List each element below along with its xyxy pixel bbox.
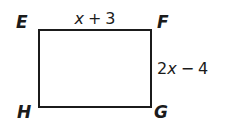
side-length-label-top: x+3 [38,11,152,27]
right-variable: x [167,59,176,78]
vertex-label-e: E [16,14,28,31]
top-operator: + [88,9,101,28]
right-operator: − [181,59,194,78]
rectangle-efgh [38,29,152,108]
right-coefficient: 2 [157,59,167,78]
top-constant: 3 [105,9,115,28]
right-constant: 4 [198,59,208,78]
top-variable: x [74,9,83,28]
side-length-label-right: 2x−4 [157,61,208,77]
vertex-label-f: F [157,14,169,31]
geometry-figure: E F H G x+3 2x−4 [0,0,230,132]
vertex-label-g: G [154,104,168,121]
vertex-label-h: H [17,104,31,121]
